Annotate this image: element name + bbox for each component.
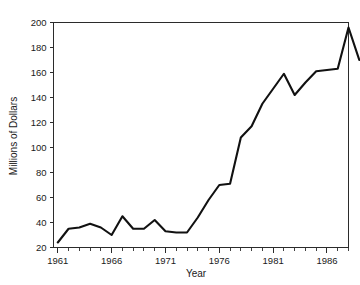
chart-canvas: 20406080100120140160180200 1961196619711… — [0, 0, 360, 285]
y-axis-ticks — [50, 23, 54, 248]
y-tick-label: 140 — [31, 92, 47, 103]
y-tick-label: 200 — [31, 17, 47, 28]
x-tick-label: 1986 — [316, 255, 337, 266]
y-tick-label: 80 — [36, 167, 47, 178]
y-tick-label: 180 — [31, 42, 47, 53]
y-axis-title: Millions of Dollars — [8, 97, 19, 175]
x-axis-title: Year — [186, 268, 207, 279]
line-chart: 20406080100120140160180200 1961196619711… — [0, 0, 360, 285]
data-series-line — [58, 28, 359, 243]
y-tick-label: 20 — [36, 242, 47, 253]
x-tick-label: 1981 — [263, 255, 284, 266]
y-tick-label: 160 — [31, 67, 47, 78]
x-tick-label: 1971 — [155, 255, 176, 266]
x-tick-label: 1966 — [101, 255, 122, 266]
x-tick-label: 1976 — [209, 255, 230, 266]
x-axis-tick-labels: 196119661971197619811986 — [47, 255, 337, 266]
x-tick-label: 1961 — [47, 255, 68, 266]
y-tick-label: 40 — [36, 217, 47, 228]
y-tick-label: 100 — [31, 142, 47, 153]
y-tick-label: 60 — [36, 192, 47, 203]
x-axis-major-ticks — [58, 248, 327, 253]
y-tick-label: 120 — [31, 117, 47, 128]
y-axis-tick-labels: 20406080100120140160180200 — [31, 17, 47, 253]
